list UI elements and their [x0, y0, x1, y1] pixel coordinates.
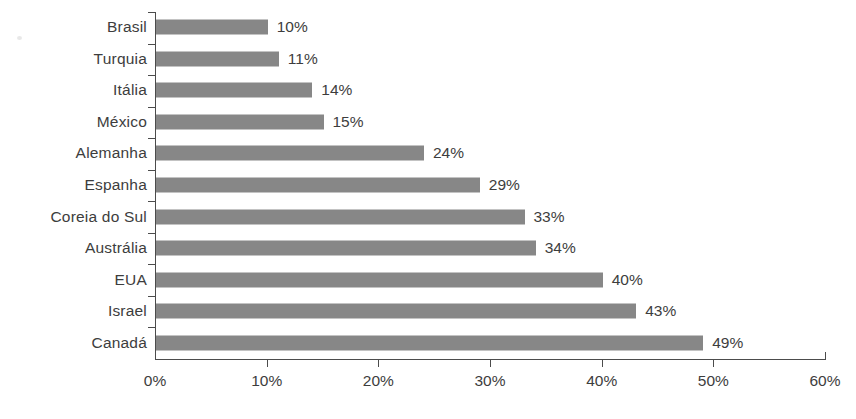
x-axis-tick-label: 60%	[809, 372, 840, 390]
x-axis-tick-label: 20%	[363, 372, 394, 390]
x-axis-tick-label: 30%	[474, 372, 505, 390]
x-axis-ticks: 0%10%20%30%40%50%60%	[0, 0, 856, 419]
x-axis-tick-label: 40%	[586, 372, 617, 390]
x-axis-tick-label: 50%	[698, 372, 729, 390]
bar-chart: Brasil10%Turquia11%Itália14%México15%Ale…	[0, 0, 856, 419]
x-axis-tick	[713, 359, 714, 367]
x-axis-tick	[378, 359, 379, 367]
x-axis-tick-label: 10%	[251, 372, 282, 390]
x-axis-tick-label: 0%	[144, 372, 166, 390]
x-axis-tick	[490, 359, 491, 367]
x-axis-tick	[602, 359, 603, 367]
x-axis-tick	[267, 359, 268, 367]
